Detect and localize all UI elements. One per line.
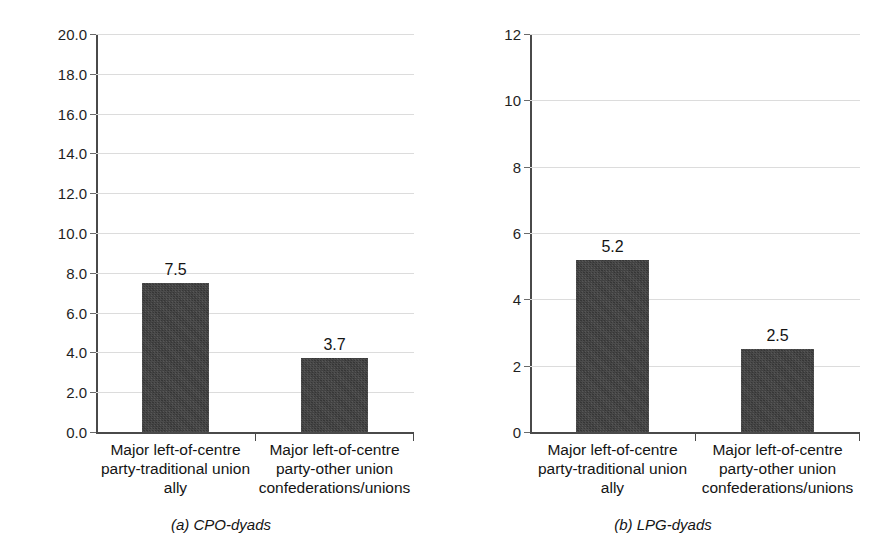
y-axis-tick [524,100,530,101]
gridline [530,167,860,168]
y-axis-tick [90,193,96,194]
y-axis-tick [524,34,530,35]
category-label-line: party-traditional union [96,459,255,478]
chart-panel-a: 0.02.04.06.08.010.012.014.016.018.020.07… [0,0,442,556]
gridline [96,273,414,274]
y-axis-tick-label: 12.0 [58,186,87,201]
bar-value-label: 7.5 [164,262,186,283]
category-label-line: party-other union [255,459,414,478]
gridline [96,34,414,35]
y-axis-tick-label: 2.0 [66,385,87,400]
gridline [96,193,414,194]
y-axis-tick-label: 0.0 [66,425,87,440]
category-labels-a: Major left-of-centreparty-traditional un… [96,440,414,497]
y-axis-tick-label: 0 [513,425,521,440]
y-axis-tick-label: 10.0 [58,226,87,241]
x-axis-category-label: Major left-of-centreparty-other unioncon… [695,440,860,497]
y-axis-line-a [96,34,98,434]
y-axis-tick-label: 8 [513,159,521,174]
category-label-line: ally [96,478,255,497]
chart-panel-b: 0246810125.22.5 Major left-of-centrepart… [442,0,884,556]
y-axis-tick [90,392,96,393]
y-axis-line-b [530,34,532,434]
y-axis-tick-label: 16.0 [58,106,87,121]
y-axis-tick-label: 4.0 [66,345,87,360]
y-axis-tick [524,366,530,367]
panel-caption-b: (b) LPG-dyads [442,516,884,533]
bar [576,260,649,432]
y-axis-tick-label: 8.0 [66,265,87,280]
category-label-line: Major left-of-centre [255,440,414,459]
y-axis-tick-label: 4 [513,292,521,307]
gridline [530,34,860,35]
bar-value-label: 3.7 [323,337,345,358]
y-axis-tick [524,167,530,168]
gridline [96,153,414,154]
gridline [96,233,414,234]
y-axis-tick [524,233,530,234]
gridline [96,114,414,115]
gridline [530,233,860,234]
plot-area-b: 0246810125.22.5 [530,34,860,434]
y-axis-tick [90,74,96,75]
category-label-line: Major left-of-centre [530,440,695,459]
category-label-line: Major left-of-centre [695,440,860,459]
y-axis-tick [90,352,96,353]
y-axis-tick-label: 20.0 [58,27,87,42]
category-label-line: confederations/unions [255,478,414,497]
x-axis-category-label: Major left-of-centreparty-traditional un… [530,440,695,497]
y-axis-tick [524,299,530,300]
y-axis-tick [90,432,96,433]
y-axis-tick-label: 18.0 [58,66,87,81]
category-label-line: party-other union [695,459,860,478]
panel-caption-a: (a) CPO-dyads [0,516,442,533]
y-axis-tick [90,153,96,154]
y-axis-tick [524,432,530,433]
category-labels-b: Major left-of-centreparty-traditional un… [530,440,860,497]
y-axis-tick-label: 6 [513,226,521,241]
y-axis-tick-label: 14.0 [58,146,87,161]
category-label-line: ally [530,478,695,497]
gridline [530,100,860,101]
y-axis-tick [90,273,96,274]
category-label-line: confederations/unions [695,478,860,497]
gridline [96,74,414,75]
bar [142,283,209,432]
y-axis-tick [90,313,96,314]
y-axis-tick [90,34,96,35]
y-axis-tick-label: 2 [513,358,521,373]
y-axis-tick-label: 10 [504,93,521,108]
bar [301,358,368,432]
x-axis-category-label: Major left-of-centreparty-traditional un… [96,440,255,497]
y-axis-tick-label: 6.0 [66,305,87,320]
bar-value-label: 5.2 [601,239,623,260]
y-axis-tick [90,233,96,234]
bar-value-label: 2.5 [766,328,788,349]
category-label-line: party-traditional union [530,459,695,478]
plot-area-a: 0.02.04.06.08.010.012.014.016.018.020.07… [96,34,414,434]
y-axis-tick-label: 12 [504,27,521,42]
bar [741,349,814,432]
figure-two-panel-bar-charts: 0.02.04.06.08.010.012.014.016.018.020.07… [0,0,884,556]
y-axis-tick [90,114,96,115]
x-axis-category-label: Major left-of-centreparty-other unioncon… [255,440,414,497]
category-label-line: Major left-of-centre [96,440,255,459]
